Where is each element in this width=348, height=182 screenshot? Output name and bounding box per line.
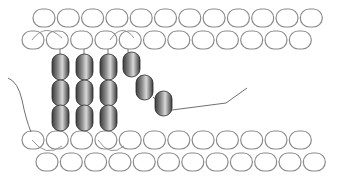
lipid-head: [168, 131, 190, 149]
lipid-head: [82, 9, 104, 27]
lipid-head: [216, 31, 238, 49]
helix-segment: [76, 54, 93, 80]
lipid-head: [60, 153, 82, 171]
lipid-head: [71, 131, 93, 149]
lipid-head: [144, 131, 166, 149]
lipid-head: [85, 153, 107, 171]
lipid-head: [33, 9, 55, 27]
helix-segment: [100, 105, 117, 131]
lipid-head: [203, 9, 225, 27]
lipid-head: [216, 131, 238, 149]
lipid-head: [36, 153, 58, 171]
helix-segment: [76, 105, 93, 131]
helix-segment: [76, 80, 93, 106]
terminal-tails: [8, 78, 247, 132]
lipid-head: [279, 153, 301, 171]
lipid-head: [22, 31, 44, 49]
lipid-head: [265, 31, 287, 49]
n-terminal-tail: [8, 78, 31, 132]
lipid-row-outer-top: [33, 9, 322, 27]
diagram-canvas: [0, 0, 348, 182]
lipid-head: [133, 153, 155, 171]
lipid-head: [144, 31, 166, 49]
lipid-head: [252, 9, 274, 27]
helix-segment: [100, 54, 117, 80]
helix-segment: [100, 80, 117, 106]
lipid-head: [192, 31, 214, 49]
c-terminal-tail: [172, 88, 247, 110]
lipid-head: [95, 31, 117, 49]
lipid-head: [255, 153, 277, 171]
helix-segment: [52, 54, 69, 80]
transmembrane-helices: [52, 52, 172, 131]
helix-segment: [136, 75, 153, 100]
lipid-head: [158, 153, 180, 171]
lipid-head: [300, 9, 322, 27]
lipid-head: [168, 31, 190, 49]
lipid-head: [155, 9, 177, 27]
lipid-row-inner-bottom: [22, 131, 311, 149]
lipid-head: [289, 31, 311, 49]
helix-segment: [52, 105, 69, 131]
membrane-protein-diagram: [0, 0, 348, 182]
lipid-head: [303, 153, 325, 171]
lipid-head: [106, 9, 128, 27]
lipid-head: [206, 153, 228, 171]
lipid-head: [227, 9, 249, 27]
lipid-head: [119, 131, 141, 149]
lipid-head: [57, 9, 79, 27]
helix-segment: [52, 80, 69, 106]
lipid-head: [241, 31, 263, 49]
lipid-head: [192, 131, 214, 149]
lipid-head: [130, 9, 152, 27]
lipid-row-inner-top: [22, 31, 311, 49]
lipid-head: [71, 31, 93, 49]
helix-segment: [123, 52, 140, 77]
lipid-head: [289, 131, 311, 149]
lipid-head: [109, 153, 131, 171]
helix-segment: [155, 91, 172, 116]
lipid-head: [46, 131, 68, 149]
lipid-head: [230, 153, 252, 171]
lipid-head: [276, 9, 298, 27]
lipid-head: [241, 131, 263, 149]
lipid-head: [182, 153, 204, 171]
lipid-head: [179, 9, 201, 27]
lipid-head: [265, 131, 287, 149]
lipid-head: [22, 131, 44, 149]
lipid-row-outer-bottom: [36, 153, 325, 171]
